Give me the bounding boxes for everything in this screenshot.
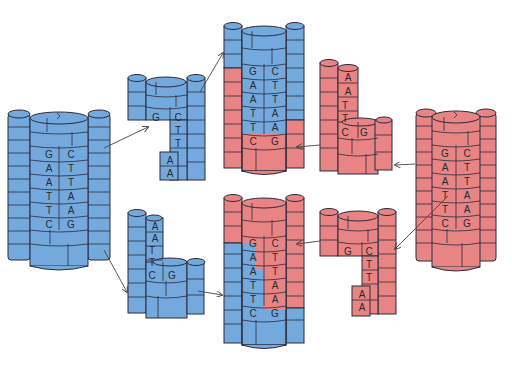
base-label: T (366, 272, 372, 283)
base-label: T (175, 138, 181, 149)
base-label: C (249, 308, 256, 319)
base-label: A (345, 86, 352, 97)
base-label: C (249, 136, 256, 147)
base-label: A (250, 94, 257, 105)
base-label: C (67, 149, 74, 160)
base-label: T (342, 100, 348, 111)
base-label: A (359, 289, 366, 300)
red-bottom-fragment: G C T T A A (320, 209, 396, 317)
red-parent-molecule: G A A T T C C T T A A G (416, 109, 496, 271)
base-label: A (272, 108, 279, 119)
base-label: A (167, 155, 174, 166)
base-label: T (442, 204, 448, 215)
base-label: A (46, 177, 53, 188)
base-label: C (365, 246, 372, 257)
base-label: T (272, 94, 278, 105)
base-label: G (360, 127, 368, 138)
base-label: T (149, 245, 155, 256)
recombinant-bottom-molecule: G A A T T C C T T A A G (224, 195, 304, 349)
base-label: T (68, 163, 74, 174)
base-label: G (168, 270, 176, 281)
base-label: T (250, 294, 256, 305)
base-label: C (174, 112, 181, 123)
base-label: T (272, 252, 278, 263)
base-label: G (463, 218, 471, 229)
base-label: A (464, 204, 471, 215)
arrow-icon (104, 127, 148, 148)
base-label: A (359, 302, 366, 313)
base-label: A (152, 233, 159, 244)
base-label: A (464, 190, 471, 201)
base-label: C (341, 127, 348, 138)
base-label: G (249, 238, 257, 249)
base-label: A (272, 294, 279, 305)
base-label: G (152, 112, 160, 123)
base-label: C (441, 218, 448, 229)
recombinant-top-molecule: G A A T T C C T T A A G (224, 23, 304, 175)
base-label: G (67, 219, 75, 230)
base-label: A (345, 72, 352, 83)
base-label: T (149, 257, 155, 268)
base-label: T (46, 205, 52, 216)
base-label: A (250, 266, 257, 277)
base-label: T (272, 80, 278, 91)
base-label: T (272, 266, 278, 277)
base-label: A (442, 162, 449, 173)
base-label: A (68, 191, 75, 202)
base-label: A (250, 252, 257, 263)
base-label: G (271, 136, 279, 147)
base-label: T (250, 122, 256, 133)
blue-parent-molecule: G A A T T C C T T A A G (8, 110, 110, 270)
arrow-icon (395, 164, 415, 165)
blue-top-fragment: G C T T A A (128, 75, 205, 181)
base-label: C (148, 270, 155, 281)
base-label: A (272, 122, 279, 133)
base-label: T (175, 125, 181, 136)
base-label: A (46, 163, 53, 174)
base-label: T (464, 162, 470, 173)
base-label: C (45, 219, 52, 230)
base-label: C (271, 238, 278, 249)
base-label: A (68, 205, 75, 216)
blue-bottom-fragment: A A T T C G (128, 210, 205, 319)
base-label: T (68, 177, 74, 188)
base-label: G (45, 149, 53, 160)
base-label: T (464, 176, 470, 187)
base-label: G (271, 308, 279, 319)
base-label: A (272, 280, 279, 291)
base-label: C (271, 66, 278, 77)
base-label: A (250, 80, 257, 91)
base-label: T (366, 259, 372, 270)
base-label: T (250, 108, 256, 119)
base-label: T (250, 280, 256, 291)
dna-recombination-diagram: G A A T T C C T T A A G (0, 0, 512, 369)
red-top-fragment: A A T T C G (320, 60, 392, 175)
base-label: C (463, 148, 470, 159)
base-label: G (441, 148, 449, 159)
base-label: A (152, 221, 159, 232)
base-label: G (344, 246, 352, 257)
base-label: G (249, 66, 257, 77)
base-label: A (167, 168, 174, 179)
base-label: T (46, 191, 52, 202)
base-label: A (442, 176, 449, 187)
arrow-icon (104, 250, 127, 292)
arrow-icon (200, 53, 223, 92)
base-label: T (342, 113, 348, 124)
